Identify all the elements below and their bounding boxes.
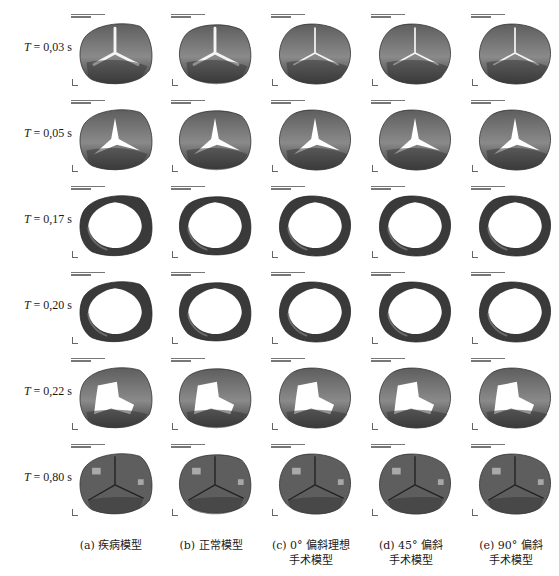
simulation-header-text: [171, 100, 205, 105]
axis-triad-icon: [272, 165, 278, 172]
simulation-panel: [65, 348, 165, 434]
simulation-header-text: [371, 272, 405, 277]
row-time-label: T = 0,17 s: [8, 212, 72, 227]
simulation-header-text: [271, 100, 305, 105]
simulation-header-text: [71, 14, 105, 19]
axis-triad-icon: [72, 165, 78, 172]
simulation-panel: [265, 348, 365, 434]
simulation-panel: [265, 4, 365, 90]
simulation-header-text: [71, 358, 105, 363]
valve-leaflet-render: [473, 192, 557, 260]
simulation-header-text: [171, 444, 205, 449]
simulation-panel: [465, 176, 559, 262]
column-caption: (a) 疾病模型: [61, 538, 161, 553]
axis-triad-icon: [272, 337, 278, 344]
axis-triad-icon: [72, 337, 78, 344]
simulation-panel: [65, 262, 165, 348]
caption-line-1: (b) 正常模型: [161, 538, 261, 553]
column-caption: (b) 正常模型: [161, 538, 261, 553]
valve-leaflet-render: [273, 364, 357, 432]
simulation-header-text: [171, 14, 205, 19]
simulation-header-text: [371, 186, 405, 191]
simulation-header-text: [71, 186, 105, 191]
valve-leaflet-render: [473, 278, 557, 346]
valve-leaflet-render: [273, 106, 357, 174]
valve-leaflet-render: [173, 20, 257, 88]
simulation-header-text: [471, 100, 505, 105]
caption-line-2: 手术模型: [461, 553, 559, 568]
axis-triad-icon: [172, 79, 178, 86]
simulation-panel: [365, 4, 465, 90]
valve-leaflet-render: [473, 364, 557, 432]
axis-triad-icon: [72, 423, 78, 430]
axis-triad-icon: [172, 251, 178, 258]
axis-triad-icon: [272, 509, 278, 516]
valve-leaflet-render: [73, 20, 157, 88]
valve-leaflet-render: [273, 278, 357, 346]
simulation-header-text: [171, 186, 205, 191]
caption-line-1: (e) 90° 偏斜: [461, 538, 559, 553]
simulation-header-text: [471, 186, 505, 191]
axis-triad-icon: [372, 337, 378, 344]
simulation-panel: [365, 262, 465, 348]
valve-leaflet-render: [373, 450, 457, 518]
simulation-header-text: [471, 272, 505, 277]
simulation-header-text: [71, 444, 105, 449]
simulation-header-text: [371, 14, 405, 19]
valve-leaflet-render: [173, 106, 257, 174]
axis-triad-icon: [372, 509, 378, 516]
valve-leaflet-render: [473, 106, 557, 174]
simulation-panel: [265, 176, 365, 262]
simulation-header-text: [271, 14, 305, 19]
column-caption: (e) 90° 偏斜手术模型: [461, 538, 559, 568]
axis-triad-icon: [172, 509, 178, 516]
simulation-panel: [465, 4, 559, 90]
axis-triad-icon: [472, 423, 478, 430]
simulation-header-text: [71, 100, 105, 105]
caption-line-2: 手术模型: [361, 553, 461, 568]
simulation-panel: [165, 4, 265, 90]
axis-triad-icon: [72, 79, 78, 86]
row-time-label: T = 0,05 s: [8, 126, 72, 141]
simulation-panel: [65, 434, 165, 520]
simulation-panel: [165, 348, 265, 434]
valve-leaflet-render: [73, 364, 157, 432]
simulation-header-text: [371, 358, 405, 363]
simulation-panel: [365, 348, 465, 434]
simulation-header-text: [271, 444, 305, 449]
time-symbol: T: [24, 40, 31, 54]
simulation-header-text: [71, 272, 105, 277]
simulation-panel: [465, 262, 559, 348]
caption-line-2: 手术模型: [261, 553, 361, 568]
time-symbol: T: [24, 298, 31, 312]
simulation-panel: [365, 434, 465, 520]
column-caption: (c) 0° 偏斜理想手术模型: [261, 538, 361, 568]
valve-leaflet-render: [173, 450, 257, 518]
simulation-header-text: [171, 272, 205, 277]
valve-leaflet-render: [373, 192, 457, 260]
valve-leaflet-render: [373, 20, 457, 88]
simulation-panel: [165, 176, 265, 262]
valve-leaflet-render: [173, 192, 257, 260]
simulation-panel: [265, 90, 365, 176]
axis-triad-icon: [472, 165, 478, 172]
simulation-header-text: [471, 14, 505, 19]
axis-triad-icon: [272, 251, 278, 258]
simulation-header-text: [171, 358, 205, 363]
caption-line-1: (d) 45° 偏斜: [361, 538, 461, 553]
valve-leaflet-render: [373, 364, 457, 432]
simulation-panel: [165, 434, 265, 520]
time-symbol: T: [24, 212, 31, 226]
valve-leaflet-render: [273, 450, 357, 518]
row-time-label: T = 0,22 s: [8, 384, 72, 399]
column-caption: (d) 45° 偏斜手术模型: [361, 538, 461, 568]
valve-leaflet-render: [373, 106, 457, 174]
axis-triad-icon: [472, 337, 478, 344]
axis-triad-icon: [272, 79, 278, 86]
row-time-label: T = 0,03 s: [8, 40, 72, 55]
time-symbol: T: [24, 384, 31, 398]
simulation-panel: [65, 90, 165, 176]
row-time-label: T = 0,80 s: [8, 470, 72, 485]
valve-leaflet-render: [273, 20, 357, 88]
valve-leaflet-render: [73, 450, 157, 518]
